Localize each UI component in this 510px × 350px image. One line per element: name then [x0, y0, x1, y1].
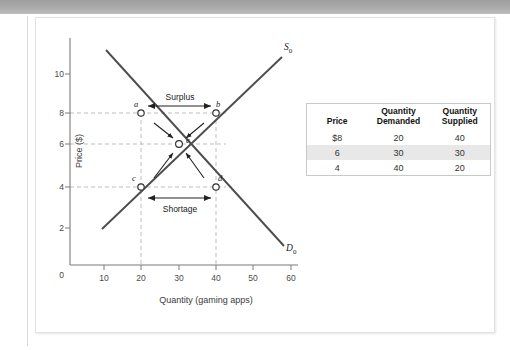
figure-panel: 10 8 6 4 2 0 10 20 30 40 50 60 Price ($)…: [35, 17, 495, 333]
table-header-row: Price Quantity Demanded Quantity Supplie…: [307, 104, 490, 130]
data-point-markers: [138, 110, 219, 190]
y-axis-title: Price ($): [74, 106, 84, 196]
x-axis-ticks: [104, 265, 291, 270]
x-tick-30: 30: [169, 273, 189, 283]
shortage-label: Shortage: [152, 204, 208, 214]
point-label-d: d: [218, 173, 222, 183]
y-tick-2: 2: [44, 223, 64, 233]
cell-quantity-demanded: 40: [367, 160, 429, 175]
cell-price: 6: [307, 145, 367, 160]
cell-price: 4: [307, 160, 367, 175]
table-row: 4 40 20: [307, 160, 490, 175]
x-axis-title: Quantity (gaming apps): [91, 295, 321, 305]
point-marker-c: [138, 184, 144, 190]
x-tick-60: 60: [281, 273, 301, 283]
point-marker-d: [213, 184, 219, 190]
supply-demand-schedule-table: Price Quantity Demanded Quantity Supplie…: [306, 103, 491, 176]
point-label-a: a: [134, 99, 138, 109]
cell-price: $8: [307, 130, 367, 145]
point-label-c: c: [132, 173, 136, 183]
y-tick-10: 10: [44, 69, 64, 79]
column-header-quantity-supplied: Quantity Supplied: [430, 104, 490, 130]
point-label-b: b: [216, 99, 220, 109]
x-tick-40: 40: [206, 273, 226, 283]
supply-curve-label: S0: [284, 42, 292, 55]
table-row-equilibrium: 6 30 30: [307, 145, 490, 160]
point-marker-e: [176, 141, 183, 148]
table-row: $8 20 40: [307, 130, 490, 145]
point-label-e: e: [186, 135, 190, 145]
cell-quantity-demanded: 20: [367, 130, 429, 145]
point-marker-b: [213, 110, 219, 116]
cell-quantity-supplied: 40: [430, 130, 490, 145]
figure-page: 10 8 6 4 2 0 10 20 30 40 50 60 Price ($)…: [0, 0, 510, 350]
cell-quantity-supplied: 20: [430, 160, 490, 175]
y-axis-ticks: [65, 74, 70, 228]
y-tick-4: 4: [44, 182, 64, 192]
point-marker-a: [138, 110, 144, 116]
demand-curve-label: D0: [286, 243, 296, 256]
x-tick-50: 50: [243, 273, 263, 283]
dashed-guides-vertical: [141, 113, 216, 265]
top-header-bar: [0, 0, 510, 14]
column-header-quantity-demanded: Quantity Demanded: [367, 104, 429, 130]
cell-quantity-demanded: 30: [367, 145, 429, 160]
y-tick-6: 6: [44, 139, 64, 149]
y-tick-0: 0: [44, 270, 64, 280]
column-header-price: Price: [307, 104, 367, 130]
surplus-label: Surplus: [154, 92, 206, 102]
left-margin-strip: [0, 16, 28, 346]
x-tick-10: 10: [94, 273, 114, 283]
supply-demand-chart: 10 8 6 4 2 0 10 20 30 40 50 60 Price ($)…: [36, 18, 346, 332]
x-tick-20: 20: [131, 273, 151, 283]
cell-quantity-supplied: 30: [430, 145, 490, 160]
y-tick-8: 8: [44, 108, 64, 118]
